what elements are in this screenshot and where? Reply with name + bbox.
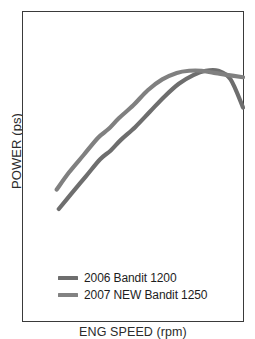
legend-label-2007: 2007 NEW Bandit 1250 bbox=[84, 288, 207, 302]
power-curve-chart: POWER (ps) 2006 Bandit 1200 2007 NEW Ban… bbox=[0, 0, 255, 339]
legend-label-2006: 2006 Bandit 1200 bbox=[84, 271, 176, 285]
legend-swatch-2006 bbox=[58, 276, 78, 280]
legend-item-2006: 2006 Bandit 1200 bbox=[58, 270, 218, 285]
legend-item-2007: 2007 NEW Bandit 1250 bbox=[58, 287, 218, 302]
legend-swatch-2007 bbox=[58, 293, 78, 297]
legend: 2006 Bandit 1200 2007 NEW Bandit 1250 bbox=[58, 270, 218, 304]
x-axis-title: ENG SPEED (rpm) bbox=[22, 325, 244, 339]
series-line-2007-new-bandit-1250 bbox=[57, 70, 243, 189]
series-line-2006-bandit-1200 bbox=[59, 70, 243, 209]
